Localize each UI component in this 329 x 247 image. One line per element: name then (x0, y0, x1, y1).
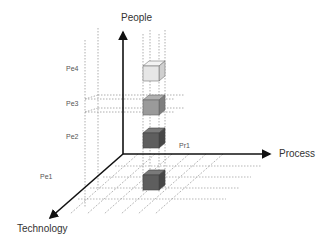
technology-axis (50, 154, 123, 218)
process-axis-label: Process (279, 148, 315, 159)
tick-pe3: Pe3 (66, 100, 78, 107)
tick-pe4: Pe4 (66, 65, 78, 72)
tick-pe2: Pe2 (66, 133, 78, 140)
tick-pr1: Pr1 (179, 142, 190, 149)
cube-pe4 (143, 61, 165, 81)
technology-axis-label: Technology (17, 223, 68, 234)
pe3-plane-lines (85, 95, 185, 112)
cube-pe2 (143, 128, 165, 148)
axes (50, 32, 270, 218)
cube-pe1 (143, 170, 165, 190)
tick-pe1: Pe1 (40, 173, 52, 180)
3d-axes-diagram (0, 0, 329, 247)
cube-pe3 (143, 95, 165, 115)
people-axis-label: People (121, 12, 152, 23)
